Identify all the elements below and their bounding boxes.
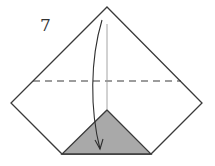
origami-diagram: 7 <box>0 0 215 166</box>
diagram-canvas <box>0 0 215 166</box>
step-number: 7 <box>40 17 51 34</box>
